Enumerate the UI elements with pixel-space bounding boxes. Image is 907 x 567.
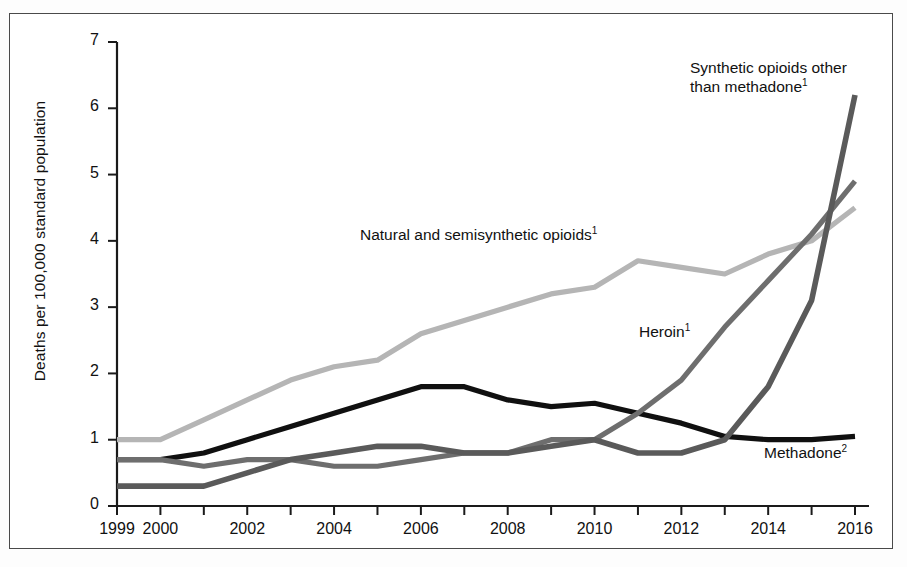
series-line-methadone — [117, 387, 855, 460]
x-axis-tick-label: 2000 — [130, 520, 190, 538]
series-label-synthetic-footnote: 1 — [802, 77, 808, 88]
series-label-natural-text: Natural and semisynthetic opioids — [360, 226, 592, 243]
series-label-methadone-footnote: 2 — [842, 443, 848, 454]
series-label-heroin-footnote: 1 — [685, 322, 691, 333]
y-axis-title: Deaths per 100,000 standard population — [31, 31, 49, 451]
y-axis-tick-label: 3 — [59, 296, 99, 314]
y-axis-tick-label: 5 — [59, 164, 99, 182]
x-axis-tick-label: 2004 — [304, 520, 364, 538]
chart-series-group — [117, 95, 855, 486]
y-axis-tick-label: 4 — [59, 230, 99, 248]
x-axis-tick-label: 2006 — [391, 520, 451, 538]
series-label-natural-semisynthetic: Natural and semisynthetic opioids1 — [360, 225, 597, 244]
chart-page: Deaths per 100,000 standard population 0… — [0, 0, 907, 567]
chart-axes — [108, 42, 869, 515]
series-line-synthetic-opioids-other-than-methadone — [117, 95, 855, 486]
series-label-methadone: Methadone2 — [764, 443, 847, 462]
series-label-heroin: Heroin1 — [639, 322, 690, 341]
series-label-methadone-text: Methadone — [764, 444, 842, 461]
x-axis-tick-label: 2002 — [217, 520, 277, 538]
y-axis-tick-label: 1 — [59, 429, 99, 447]
series-label-natural-footnote: 1 — [592, 225, 598, 236]
y-axis-tick-label: 7 — [59, 31, 99, 49]
x-axis-tick-label: 2014 — [738, 520, 798, 538]
series-label-synthetic-opioids: Synthetic opioids other than methadone1 — [690, 58, 905, 96]
series-line-heroin — [117, 181, 855, 466]
y-axis-tick-label: 0 — [59, 495, 99, 513]
x-axis-tick-label: 2012 — [651, 520, 711, 538]
x-axis-tick-label: 2010 — [565, 520, 625, 538]
y-axis-tick-label: 2 — [59, 362, 99, 380]
series-label-synthetic-line2: than methadone — [690, 78, 802, 95]
x-axis-tick-label: 2016 — [825, 520, 885, 538]
series-label-heroin-text: Heroin — [639, 323, 685, 340]
y-axis-tick-label: 6 — [59, 97, 99, 115]
x-axis-tick-label: 2008 — [478, 520, 538, 538]
series-label-synthetic-line1: Synthetic opioids other — [690, 59, 847, 76]
y-axis-title-text: Deaths per 100,000 standard population — [31, 101, 48, 381]
